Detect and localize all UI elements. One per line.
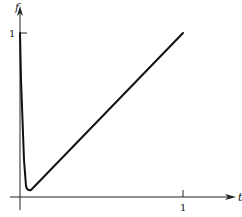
y-tick-label: 1 [9, 28, 15, 39]
x-tick-label: 1 [180, 202, 186, 213]
data-curve [20, 33, 183, 190]
x-axis-label: t [238, 191, 242, 204]
chart: f t 1 1 [0, 0, 242, 217]
